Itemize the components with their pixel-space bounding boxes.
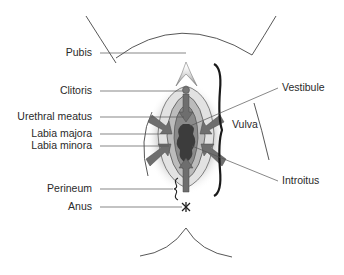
label-perineum: Perineum bbox=[47, 183, 92, 194]
label-labia-majora: Labia majora bbox=[31, 128, 92, 139]
label-vulva: Vulva bbox=[232, 119, 258, 130]
clitoris-shape bbox=[183, 87, 190, 94]
label-labia-minora: Labia minora bbox=[31, 140, 92, 151]
label-clitoris: Clitoris bbox=[60, 85, 92, 96]
label-anus: Anus bbox=[68, 201, 92, 212]
anus-mark bbox=[182, 202, 190, 212]
label-introitus: Introitus bbox=[282, 175, 319, 186]
label-urethral-meatus: Urethral meatus bbox=[17, 111, 92, 122]
label-pubis: Pubis bbox=[66, 47, 92, 58]
label-vestibule: Vestibule bbox=[282, 82, 325, 93]
